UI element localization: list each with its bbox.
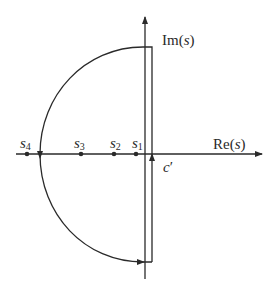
contour-arrow-down-icon — [37, 151, 43, 159]
contour-label: c′ — [163, 159, 173, 175]
imaginary-axis-label: Im(s) — [162, 32, 195, 49]
point-s4 — [25, 152, 30, 157]
contour-arrow-right-icon — [137, 259, 145, 265]
label-s1: s1 — [132, 135, 143, 152]
real-axis-label: Re(s) — [213, 136, 246, 153]
label-s2: s2 — [110, 135, 121, 152]
contour-diagram: s4 s3 s2 s1 Re(s) Im(s) c′ — [0, 0, 270, 292]
point-s3 — [79, 152, 84, 157]
label-s3: s3 — [74, 135, 85, 152]
point-s1 — [134, 152, 139, 157]
point-s2 — [112, 152, 117, 157]
label-s4: s4 — [20, 135, 31, 152]
